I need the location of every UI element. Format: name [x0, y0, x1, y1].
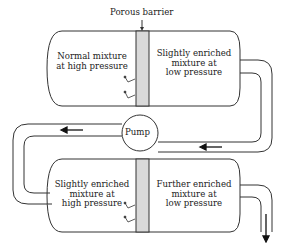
top-right-label: Slightly enriched mixture at low pressur… — [152, 49, 236, 78]
flow-arrow-icon — [263, 236, 269, 242]
flow-arrow-icon — [200, 144, 206, 150]
top-left-label: Normal mixture at high pressure — [52, 52, 132, 71]
exit-pipe-inner — [240, 197, 261, 232]
diagram-graphics — [0, 0, 284, 243]
pointer-arrow-icon — [140, 27, 144, 31]
bottom-porous-barrier — [136, 159, 149, 232]
return-pipe-inner — [158, 73, 261, 142]
exit-pipe-outer — [240, 185, 272, 232]
top-porous-barrier — [136, 31, 149, 106]
bottom-right-label: Further enriched mixture at low pressure — [152, 180, 236, 209]
bottom-left-label: Slightly enriched mixture at high pressu… — [52, 180, 132, 209]
porous-barrier-label: Porous barrier — [110, 8, 173, 18]
flow-arrow-icon — [61, 127, 67, 133]
gaseous-diffusion-diagram: Porous barrier Normal mixture at high pr… — [0, 0, 284, 243]
pump-label: Pump — [125, 128, 150, 138]
